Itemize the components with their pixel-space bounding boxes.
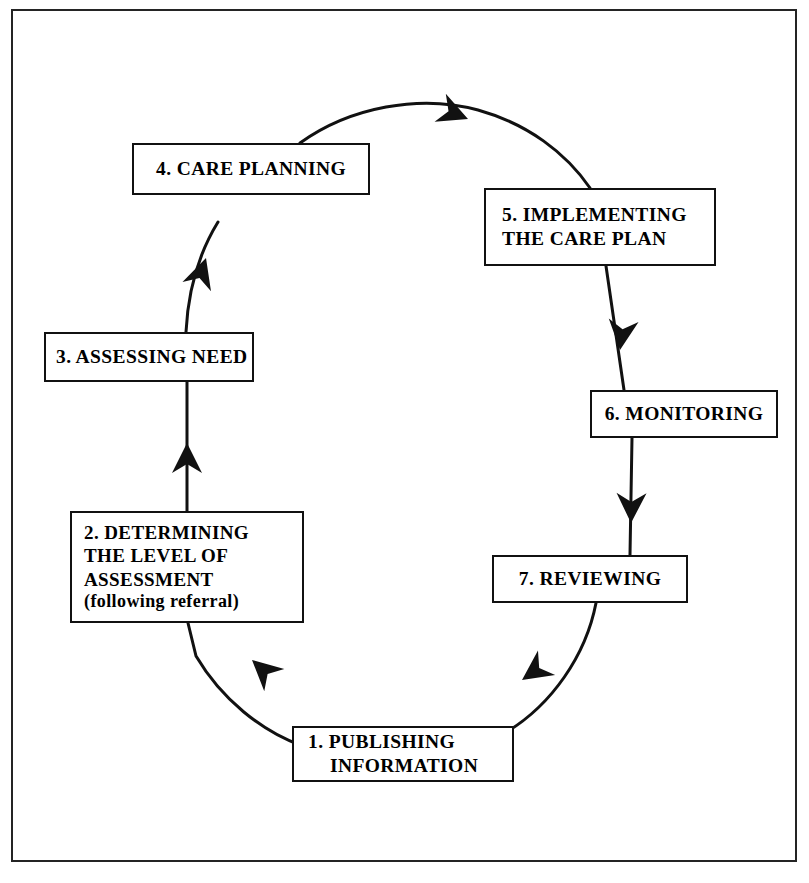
stage-label-monitoring: 6. MONITORING <box>592 402 776 426</box>
stage-label-determining-level-of-assessment: 2. DETERMINING THE LEVEL OF ASSESSMENT (… <box>72 521 302 612</box>
arrowhead-publishing-to-determining <box>242 649 284 691</box>
stage-box-monitoring[interactable]: 6. MONITORING <box>590 390 778 438</box>
diagram-page: 4. CARE PLANNING 5. IMPLEMENTING THE CAR… <box>0 0 809 883</box>
stage-label-assessing-need: 3. ASSESSING NEED <box>46 345 252 369</box>
stage-box-publishing-information[interactable]: 1. PUBLISHING INFORMATION <box>292 726 514 782</box>
stage-label-reviewing: 7. REVIEWING <box>494 567 686 591</box>
stage-label-care-planning: 4. CARE PLANNING <box>134 157 368 181</box>
stage-label-publishing-information: 1. PUBLISHING INFORMATION <box>294 730 512 778</box>
stage-box-implementing-the-care-plan[interactable]: 5. IMPLEMENTING THE CARE PLAN <box>484 188 716 266</box>
stage-box-assessing-need[interactable]: 3. ASSESSING NEED <box>44 332 254 382</box>
arrowhead-reviewing-to-publishing <box>513 651 555 693</box>
arrowhead-implementing-to-monitoring <box>605 318 638 351</box>
path-publishing-to-determining <box>188 623 300 745</box>
arrowhead-care-planning-to-implementing <box>435 94 474 133</box>
stage-label-implementing-the-care-plan: 5. IMPLEMENTING THE CARE PLAN <box>486 203 714 251</box>
stage-box-reviewing[interactable]: 7. REVIEWING <box>492 555 688 603</box>
path-monitoring-to-reviewing <box>630 438 632 555</box>
stage-box-care-planning[interactable]: 4. CARE PLANNING <box>132 143 370 195</box>
stage-box-determining-level-of-assessment[interactable]: 2. DETERMINING THE LEVEL OF ASSESSMENT (… <box>70 511 304 623</box>
